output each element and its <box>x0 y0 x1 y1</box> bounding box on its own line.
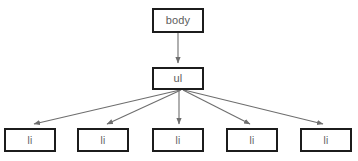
edge-ul-li1 <box>34 90 180 124</box>
node-li-5[interactable]: li <box>300 128 352 152</box>
node-li-4[interactable]: li <box>226 128 278 152</box>
edge-ul-li4 <box>183 90 250 124</box>
node-li-3[interactable]: li <box>152 128 204 152</box>
edge-ul-li2 <box>107 90 181 124</box>
node-li-2[interactable]: li <box>77 128 129 152</box>
edge-ul-li5 <box>184 90 323 124</box>
node-li-4-label: li <box>250 135 255 146</box>
node-li-1[interactable]: li <box>4 128 56 152</box>
node-body[interactable]: body <box>152 8 204 33</box>
node-li-2-label: li <box>101 135 106 146</box>
node-ul[interactable]: ul <box>152 67 204 90</box>
node-ul-label: ul <box>174 73 183 84</box>
node-li-1-label: li <box>28 135 33 146</box>
node-li-3-label: li <box>176 135 181 146</box>
node-body-label: body <box>166 15 191 26</box>
node-li-5-label: li <box>324 135 329 146</box>
dom-tree-diagram: body ul li li li li li <box>0 0 358 161</box>
